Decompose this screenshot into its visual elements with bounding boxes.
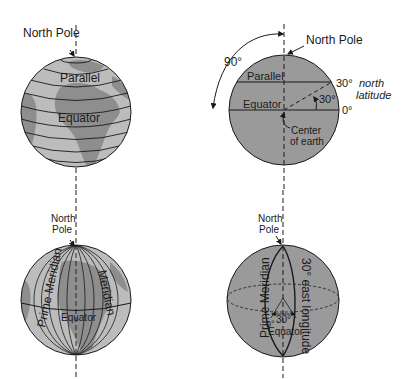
globe-meridians-panel: North Pole Prime Meridian Meridian Equat… bbox=[21, 190, 131, 378]
center-of-earth-line1: Center bbox=[291, 125, 322, 136]
zero-degree-label: 0° bbox=[342, 104, 353, 116]
ninety-degree-label: 90° bbox=[224, 55, 242, 69]
north-pole-pointer bbox=[70, 50, 74, 56]
equator-label: Equator bbox=[268, 326, 304, 337]
north-pole-label: North Pole bbox=[23, 26, 80, 40]
longitude-cross-section-panel: North Pole Prime Meridian 30° east longi… bbox=[227, 190, 339, 378]
globe-parallels-panel: North Pole Parallel Equator bbox=[21, 25, 131, 190]
north-label: North bbox=[51, 213, 75, 224]
north-pole-label: North Pole bbox=[306, 33, 363, 47]
parallel-label: Parallel bbox=[60, 71, 100, 85]
pole-label: Pole bbox=[259, 224, 279, 235]
latitude-label: latitude bbox=[356, 89, 391, 101]
north-pole-pointer bbox=[276, 236, 281, 244]
equator-label: Equator bbox=[243, 98, 282, 110]
thirty-degree-latitude-label: 30° bbox=[336, 77, 353, 89]
earth-sphere bbox=[227, 245, 339, 357]
north-label: North bbox=[258, 213, 282, 224]
equator-label: Equator bbox=[61, 312, 97, 323]
parallel-label: Parallel bbox=[247, 70, 284, 82]
angle-thirty-label: 30° bbox=[319, 93, 336, 105]
north-label: north bbox=[359, 77, 384, 89]
pole-label: Pole bbox=[52, 224, 72, 235]
north-pole-pointer bbox=[288, 46, 304, 54]
latitude-longitude-diagram: North Pole Parallel Equator North Pole 9… bbox=[0, 0, 411, 379]
angle-thirty-label: 30° bbox=[276, 314, 291, 325]
equator-label: Equator bbox=[58, 111, 100, 125]
center-of-earth-line2: of earth bbox=[290, 136, 324, 147]
latitude-cross-section-panel: North Pole 90° Parallel Equator 30° nort… bbox=[213, 24, 391, 190]
east-longitude-label: 30° east longitude bbox=[299, 258, 313, 355]
